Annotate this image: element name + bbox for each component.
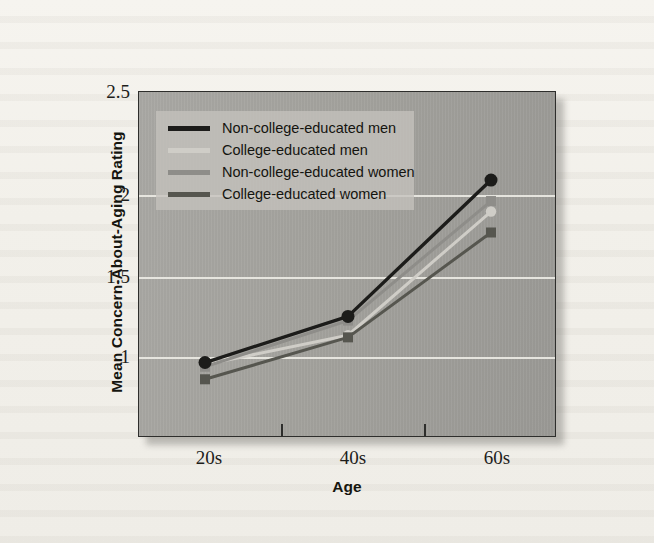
- legend-label-0: Non-college-educated men: [222, 120, 396, 136]
- legend-swatch-icon-3: [168, 192, 210, 197]
- legend-label-2: Non-college-educated women: [222, 164, 415, 180]
- data-point-3-0: [200, 374, 210, 384]
- legend-label-1: College-educated men: [222, 142, 368, 158]
- data-point-3-2: [486, 227, 496, 237]
- data-point-1-2: [486, 206, 496, 216]
- y-tick-label-2: 2: [86, 184, 130, 206]
- legend-swatch-icon-2: [168, 170, 210, 175]
- x-tick-mark-2: [424, 424, 426, 437]
- data-point-0-1: [342, 310, 355, 323]
- data-point-0-2: [485, 174, 498, 187]
- legend-label-3: College-educated women: [222, 186, 386, 202]
- legend-swatch-icon-1: [168, 148, 210, 153]
- legend-swatch-icon-0: [168, 126, 210, 131]
- chart-legend: Non-college-educated men College-educate…: [156, 111, 414, 210]
- y-axis-title-container: Mean Concern-About-Aging Rating: [60, 0, 80, 543]
- x-axis-title: Age: [138, 478, 556, 496]
- data-point-0-0: [199, 356, 212, 369]
- legend-item-college-educated-women: College-educated women: [156, 183, 414, 205]
- chart-figure: Mean Concern-About-Aging Rating 2.5 2 1.…: [0, 0, 654, 543]
- x-tick-label-40s: 40s: [313, 447, 393, 469]
- x-tick-mark-1: [281, 424, 283, 437]
- plot-area: Non-college-educated men College-educate…: [138, 91, 556, 437]
- legend-item-non-college-educated-men: Non-college-educated men: [156, 117, 414, 139]
- x-tick-label-20s: 20s: [169, 447, 249, 469]
- data-point-3-1: [343, 332, 353, 342]
- data-point-2-2: [486, 196, 496, 206]
- y-tick-label-1: 1: [86, 346, 130, 368]
- y-axis-tick-labels: 2.5 2 1.5 1: [78, 0, 130, 543]
- legend-item-college-educated-men: College-educated men: [156, 139, 414, 161]
- y-tick-label-1.5: 1.5: [86, 266, 130, 288]
- legend-item-non-college-educated-women: Non-college-educated women: [156, 161, 414, 183]
- x-tick-label-60s: 60s: [457, 447, 537, 469]
- y-tick-label-2.5: 2.5: [86, 81, 130, 103]
